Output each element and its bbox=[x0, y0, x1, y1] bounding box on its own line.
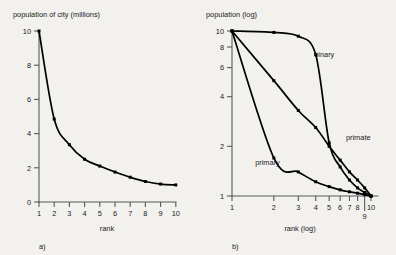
panel-a-ytick-3: 6 bbox=[27, 95, 31, 104]
panel-a-xtick-2: 3 bbox=[67, 209, 71, 218]
panel-b-xtick-6: 7 bbox=[347, 203, 351, 212]
panel-b-y-ticklabels: 1246810 bbox=[216, 27, 224, 201]
data-point bbox=[339, 165, 342, 168]
panel-b-label-binary: binary bbox=[314, 50, 334, 59]
panel-a-xtick-3: 4 bbox=[83, 209, 87, 218]
panel-a-xtick-9: 10 bbox=[172, 209, 180, 218]
panel-a-curve bbox=[39, 31, 176, 185]
panel-b-label-primate: primate bbox=[346, 133, 371, 142]
panel-a-ytick-1: 2 bbox=[27, 164, 31, 173]
data-point bbox=[68, 143, 71, 146]
panel-b-xlabel: rank (log) bbox=[284, 224, 315, 233]
panel-b-xtick-5: 6 bbox=[338, 203, 342, 212]
data-point bbox=[348, 179, 351, 182]
data-point bbox=[348, 190, 351, 193]
data-point bbox=[159, 183, 162, 186]
panel-b-ylabel: population (log) bbox=[206, 10, 257, 19]
panel-b-xtick-7: 8 bbox=[355, 203, 359, 212]
data-point bbox=[328, 145, 331, 148]
panel-a-y-ticks bbox=[34, 31, 39, 202]
data-point bbox=[339, 188, 342, 191]
data-point bbox=[370, 195, 373, 198]
panel-b-label-primary: primary bbox=[255, 158, 280, 167]
data-point bbox=[144, 180, 147, 183]
panel-a-ytick-2: 4 bbox=[27, 129, 31, 138]
panel-b-ytick-5: 10 bbox=[216, 27, 224, 36]
data-point bbox=[174, 183, 177, 186]
panel-b-ytick-2: 4 bbox=[220, 92, 224, 101]
figure-svg: population of city (millions) 0 2 4 6 8 … bbox=[0, 0, 396, 255]
panel-b-xtick-4: 5 bbox=[327, 203, 331, 212]
data-point bbox=[328, 141, 331, 144]
panel-a-xtick-1: 2 bbox=[52, 209, 56, 218]
panel-a-xtick-5: 6 bbox=[113, 209, 117, 218]
data-point bbox=[272, 31, 275, 34]
panel-b-ytick-0: 1 bbox=[220, 192, 224, 201]
panel-b-ytick-3: 6 bbox=[220, 63, 224, 72]
panel-b-xtick-0: 1 bbox=[230, 203, 234, 212]
data-point bbox=[328, 185, 331, 188]
panel-b-xtick-8: 9 bbox=[363, 212, 367, 221]
data-point bbox=[314, 180, 317, 183]
panel-b-x-ticklabels: 12345678910 bbox=[230, 203, 375, 221]
data-point bbox=[98, 165, 101, 168]
data-point bbox=[356, 192, 359, 195]
panel-a-ytick-4: 8 bbox=[27, 61, 31, 70]
panel-a-y-ticklabels: 0 2 4 6 8 10 bbox=[23, 27, 31, 207]
panel-a-xtick-0: 1 bbox=[37, 209, 41, 218]
panel-b-ytick-4: 8 bbox=[220, 43, 224, 52]
panel-a-x-ticks bbox=[39, 202, 176, 207]
panel-b-ytick-1: 2 bbox=[220, 142, 224, 151]
panel-b: population (log) 1246810 12345678910 ran… bbox=[206, 10, 378, 251]
data-point bbox=[297, 170, 300, 173]
data-point bbox=[114, 171, 117, 174]
panel-a-ylabel: population of city (millions) bbox=[13, 10, 100, 19]
data-point bbox=[272, 79, 275, 82]
data-point bbox=[339, 159, 342, 162]
panel-b-xtick-3: 4 bbox=[314, 203, 318, 212]
panel-b-xtick-1: 2 bbox=[272, 203, 276, 212]
data-point bbox=[314, 126, 317, 129]
panel-a-x-ticklabels: 1 2 3 4 5 6 7 8 9 10 bbox=[37, 209, 180, 218]
panel-b-y-ticks bbox=[227, 31, 232, 196]
data-point bbox=[38, 30, 41, 33]
panel-a-label: a) bbox=[39, 242, 46, 251]
data-point bbox=[348, 170, 351, 173]
panel-a-xtick-8: 9 bbox=[159, 209, 163, 218]
data-point bbox=[356, 179, 359, 182]
data-point bbox=[297, 35, 300, 38]
panel-a-xtick-6: 7 bbox=[128, 209, 132, 218]
figure-container: population of city (millions) 0 2 4 6 8 … bbox=[0, 0, 396, 255]
panel-a-markers bbox=[38, 30, 178, 187]
panel-b-xtick-2: 3 bbox=[296, 203, 300, 212]
data-point bbox=[363, 186, 366, 189]
panel-a-ytick-5: 10 bbox=[23, 27, 31, 36]
data-point bbox=[363, 193, 366, 196]
panel-a-xtick-4: 5 bbox=[98, 209, 102, 218]
panel-a: population of city (millions) 0 2 4 6 8 … bbox=[13, 10, 180, 251]
panel-a-xtick-7: 8 bbox=[143, 209, 147, 218]
panel-b-xtick-9: 10 bbox=[367, 203, 375, 212]
data-point bbox=[297, 109, 300, 112]
data-point bbox=[83, 158, 86, 161]
data-point bbox=[231, 30, 234, 33]
panel-b-label: b) bbox=[232, 242, 239, 251]
panel-a-xlabel: rank bbox=[100, 224, 115, 233]
data-point bbox=[356, 186, 359, 189]
data-point bbox=[129, 176, 132, 179]
data-point bbox=[53, 118, 56, 121]
panel-a-ytick-0: 0 bbox=[27, 198, 31, 207]
